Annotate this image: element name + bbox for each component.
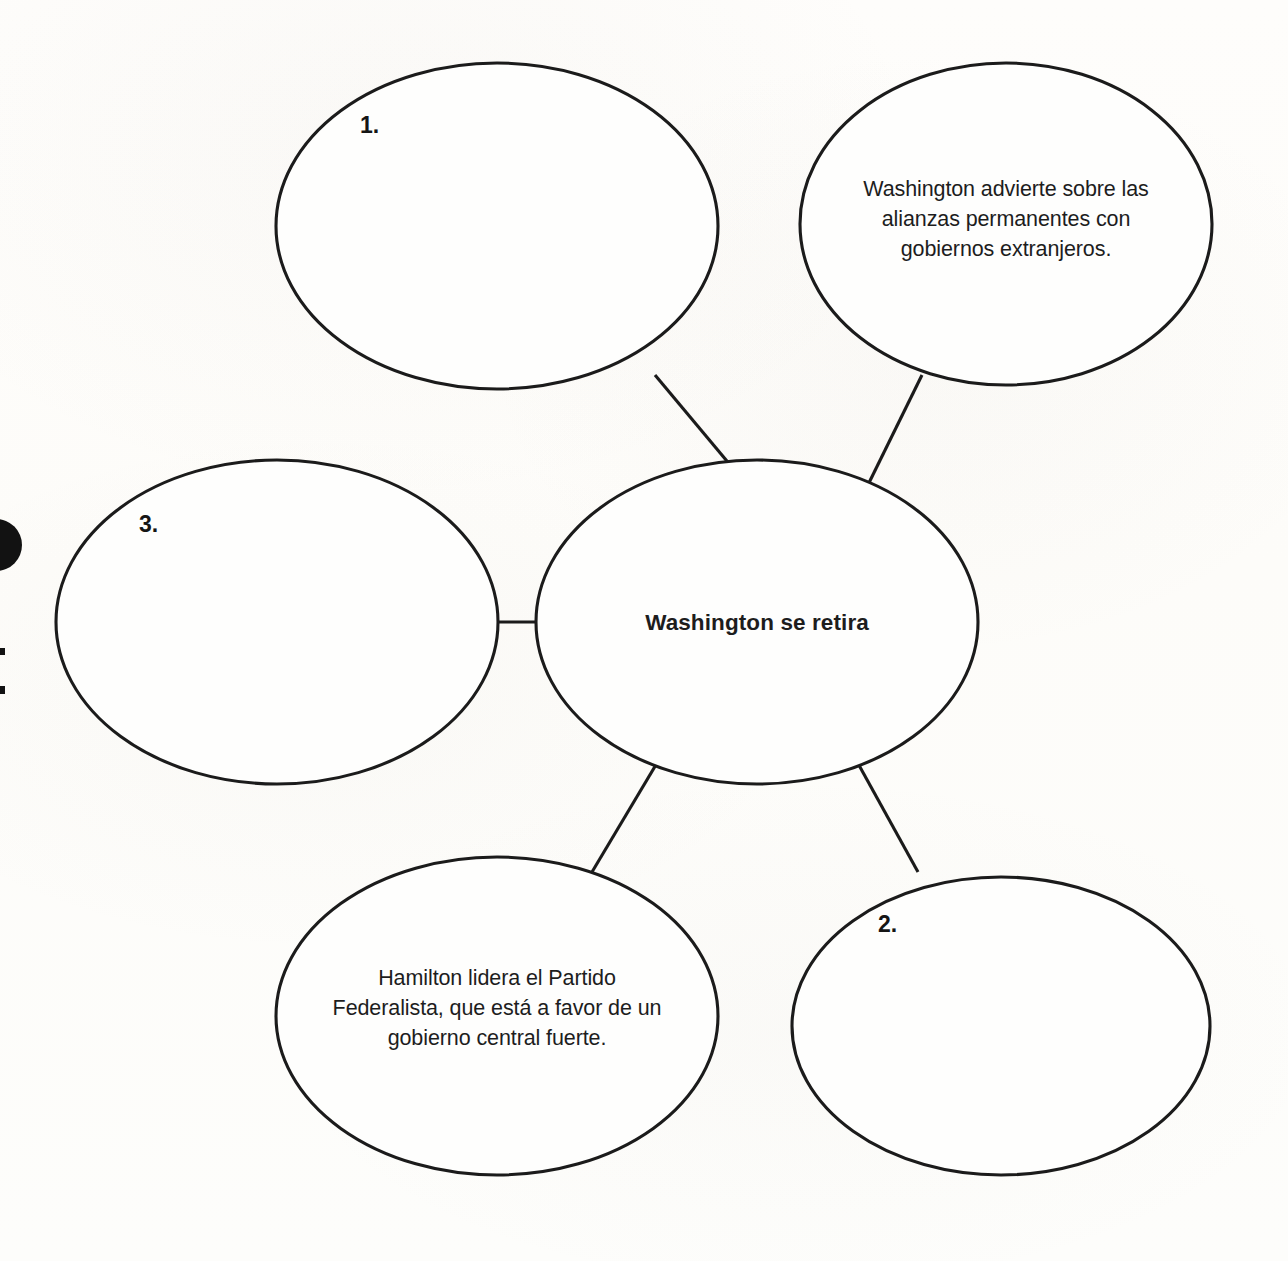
- connector-center-to-bottom-left: [592, 758, 660, 872]
- scan-artifact-mark-lower: [0, 686, 5, 694]
- node-text-bottom-left: Hamilton lidera el Partido Federalista, …: [306, 963, 688, 1053]
- node-text-center: Washington se retira: [560, 608, 954, 638]
- ellipse-node-bottom-right[interactable]: [792, 877, 1210, 1175]
- scan-artifact-mark-upper: [0, 648, 5, 655]
- node-text-top-right: Washington advierte sobre las alianzas p…: [820, 174, 1192, 264]
- node-number-top-left: 1.: [360, 112, 379, 139]
- ellipse-node-top-left[interactable]: [276, 63, 718, 389]
- worksheet-page: 1. 3. 2. Washington advierte sobre las a…: [0, 0, 1288, 1261]
- node-number-left: 3.: [139, 511, 158, 538]
- connector-center-to-top-right: [862, 375, 922, 497]
- connector-center-to-bottom-right: [855, 758, 918, 872]
- node-number-bottom-right: 2.: [878, 911, 897, 938]
- ellipse-node-left[interactable]: [56, 460, 498, 784]
- scan-artifact-dot-large: [0, 519, 22, 571]
